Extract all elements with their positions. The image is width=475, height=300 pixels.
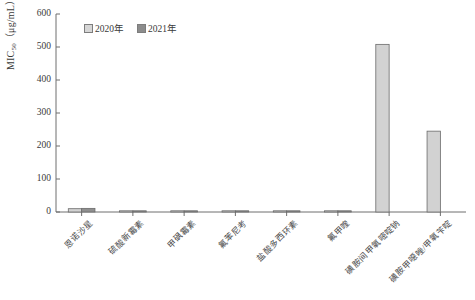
bar (338, 211, 351, 212)
y-tick-label: 600 (25, 8, 51, 18)
bar (82, 208, 95, 212)
y-tick-label: 400 (25, 74, 51, 84)
bar (222, 211, 235, 212)
bar (376, 44, 389, 212)
bars-layer (68, 44, 440, 212)
bar (133, 211, 146, 212)
bar (235, 211, 248, 212)
mic50-bar-chart: MIC50（μg/mL） 2020年 2021年 恩诺沙星硫酸新霉素甲砜霉素氟苯… (0, 0, 475, 300)
y-tick-label: 0 (25, 206, 51, 216)
axes-layer (56, 14, 466, 216)
plot-area (0, 0, 475, 300)
bar (120, 211, 133, 212)
bar (427, 131, 440, 212)
bar (273, 211, 286, 212)
bar (287, 211, 300, 212)
bar (171, 211, 184, 212)
y-tick-label: 500 (25, 41, 51, 51)
bar (184, 211, 197, 212)
y-tick-label: 100 (25, 173, 51, 183)
y-tick-label: 200 (25, 140, 51, 150)
y-tick-label: 300 (25, 107, 51, 117)
bar (325, 211, 338, 212)
bar (68, 209, 81, 212)
